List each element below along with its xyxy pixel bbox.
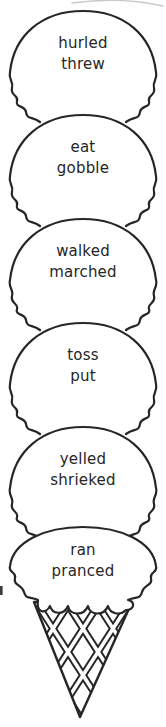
scoop-2-labels: eat gobble <box>57 138 109 177</box>
scoop-word: gobble <box>57 159 109 177</box>
faint-top-artifact-line <box>72 0 163 6</box>
scoop-4-labels: toss put <box>67 346 99 385</box>
scoop-1-labels: hurled threw <box>58 34 107 73</box>
scoop-word: pranced <box>52 562 115 580</box>
scoop-3-labels: walked marched <box>49 242 117 281</box>
cone-lattice-dark-strips <box>0 596 166 727</box>
cone-lattice <box>0 596 166 727</box>
scoop-word: shrieked <box>50 471 115 489</box>
scoop-word: yelled <box>60 450 106 468</box>
scoop-5-labels: yelled shrieked <box>50 450 115 489</box>
scoop-word: toss <box>67 346 99 364</box>
waffle-cone <box>0 596 166 727</box>
scoop-word: hurled <box>58 34 107 52</box>
cone-lattice-light-strips <box>0 596 166 727</box>
ice-cream-cone-graphic: hurled threw eat gobble walked marched t… <box>0 0 166 727</box>
scoop-word: threw <box>61 55 105 73</box>
scoop-word: eat <box>71 138 96 156</box>
scoop-word: ran <box>70 541 95 559</box>
scoop-word: marched <box>49 263 117 281</box>
scoop-word: put <box>70 367 96 385</box>
ice-cream-synonym-worksheet: hurled threw eat gobble walked marched t… <box>0 0 166 727</box>
scoop-word: walked <box>56 242 110 260</box>
edge-smudge-mark <box>0 586 3 595</box>
